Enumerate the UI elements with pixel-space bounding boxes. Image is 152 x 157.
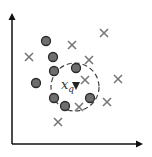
query-point: xq xyxy=(61,77,80,94)
circle-point-icon xyxy=(61,102,70,111)
circle-point-icon xyxy=(42,37,51,46)
y-axis-arrow-icon xyxy=(9,13,16,20)
cross-point-icon xyxy=(114,75,122,83)
cross-points xyxy=(25,29,122,126)
cross-point-icon xyxy=(81,76,89,84)
query-label-sub: q xyxy=(68,84,74,94)
circle-points xyxy=(32,37,95,111)
circle-point-icon xyxy=(72,64,81,73)
query-label: xq xyxy=(61,77,74,94)
x-axis-arrow-icon xyxy=(136,141,143,148)
cross-point-icon xyxy=(54,118,62,126)
cross-point-icon xyxy=(25,53,33,61)
cross-point-icon xyxy=(103,98,111,106)
knn-diagram: xq xyxy=(0,0,152,157)
circle-point-icon xyxy=(50,94,59,103)
circle-point-icon xyxy=(32,79,41,88)
axes xyxy=(9,13,144,148)
circle-point-icon xyxy=(50,67,59,76)
cross-point-icon xyxy=(75,103,83,111)
cross-point-icon xyxy=(68,41,76,49)
cross-point-icon xyxy=(100,29,108,37)
circle-point-icon xyxy=(86,94,95,103)
cross-point-icon xyxy=(85,56,93,64)
circle-point-icon xyxy=(49,53,58,62)
